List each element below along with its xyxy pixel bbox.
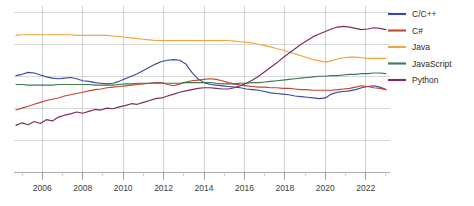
x-tick-label: 2020 xyxy=(316,183,335,193)
x-tick-label: 2012 xyxy=(154,183,173,193)
legend-label-c-c[interactable]: C/C++ xyxy=(412,9,437,19)
x-tick-label: 2016 xyxy=(235,183,254,193)
legend-label-python[interactable]: Python xyxy=(412,75,439,85)
line-chart-panel: 200620082010201220142016201820202022 C/C… xyxy=(0,0,474,206)
chart-canvas: 200620082010201220142016201820202022 C/C… xyxy=(0,0,474,206)
chart-legend: C/C++C#JavaJavaScriptPython xyxy=(388,9,452,85)
legend-label-c[interactable]: C# xyxy=(412,26,423,36)
x-tick-label: 2006 xyxy=(33,183,52,193)
x-axis-tick-labels: 200620082010201220142016201820202022 xyxy=(33,183,376,193)
x-tick-label: 2008 xyxy=(73,183,92,193)
horizontal-gridlines xyxy=(14,12,390,140)
series-line-javascript xyxy=(16,73,386,85)
vertical-gridlines xyxy=(42,6,365,172)
x-axis-ticks xyxy=(22,172,386,180)
x-tick-label: 2010 xyxy=(114,183,133,193)
series-line-c-c xyxy=(16,60,386,99)
legend-label-javascript[interactable]: JavaScript xyxy=(412,59,452,69)
series-line-java xyxy=(16,35,386,62)
legend-label-java[interactable]: Java xyxy=(412,42,430,52)
x-tick-label: 2014 xyxy=(195,183,214,193)
x-tick-label: 2022 xyxy=(356,183,375,193)
x-tick-label: 2018 xyxy=(275,183,294,193)
